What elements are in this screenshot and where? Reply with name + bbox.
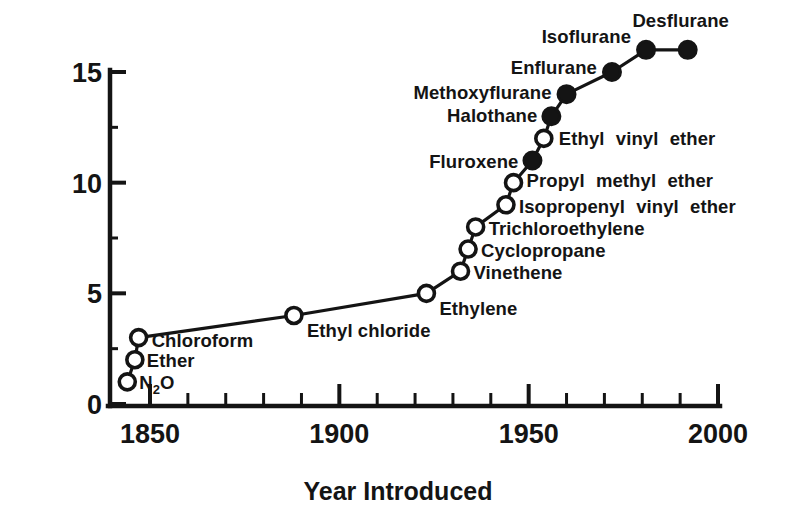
y-tick-label: 15: [72, 58, 102, 88]
x-tick-label: 1900: [309, 419, 369, 449]
data-point-labels: N2OEtherChloroformEthyl chlorideEthylene…: [139, 10, 735, 397]
data-point-ethyl-vinyl-ether: [536, 130, 552, 146]
data-point-label-ethylene: Ethylene: [439, 298, 517, 319]
x-tick-label: 2000: [688, 419, 748, 449]
data-point-label-enflurane: Enflurane: [511, 57, 597, 78]
chart-canvas: 051015 1850190019502000 N2OEtherChlorofo…: [0, 0, 787, 515]
data-point-label-cyclopropane: Cyclopropane: [481, 240, 606, 261]
data-point-propyl-methyl-ether: [506, 175, 522, 191]
data-point-methoxyflurane: [558, 86, 575, 103]
data-point-halothane: [543, 108, 560, 125]
x-axis-title: Year Introduced: [304, 477, 493, 505]
data-point-trichloroethylene: [468, 219, 484, 235]
data-point-label-isoflurane: Isoflurane: [542, 26, 631, 47]
data-point-label-ethyl-chloride: Ethyl chloride: [307, 320, 431, 341]
data-point-desflurane: [679, 41, 696, 58]
data-point-label-vinethene: Vinethene: [474, 262, 563, 283]
y-axis-tick-labels: 051015: [72, 58, 102, 420]
x-axis-tick-labels: 1850190019502000: [120, 419, 748, 449]
y-tick-label: 5: [87, 279, 102, 309]
data-point-isoflurane: [638, 41, 655, 58]
data-point-enflurane: [603, 64, 620, 81]
x-axis-major-ticks: [150, 384, 718, 406]
data-point-cyclopropane: [460, 241, 476, 257]
data-point-label-isopropenyl-vinyl-ether: Isopropenyl vinyl ether: [519, 196, 736, 217]
data-point-isopropenyl-vinyl-ether: [498, 197, 514, 213]
data-point-label-propyl-methyl-ether: Propyl methyl ether: [527, 170, 714, 191]
data-point-label-fluroxene: Fluroxene: [429, 151, 518, 172]
data-point-fluroxene: [524, 152, 541, 169]
data-point-label-ether: Ether: [147, 350, 195, 371]
data-point-label-n2o: N2O: [139, 372, 174, 397]
data-point-label-chloroform: Chloroform: [152, 330, 254, 351]
data-point-label-methoxyflurane: Methoxyflurane: [413, 82, 551, 103]
data-point-ethylene: [418, 285, 434, 301]
y-tick-label: 10: [72, 169, 102, 199]
data-point-label-halothane: Halothane: [447, 105, 537, 126]
data-point-label-ethyl-vinyl-ether: Ethyl vinyl ether: [559, 128, 716, 149]
data-point-ether: [127, 352, 143, 368]
x-tick-label: 1850: [120, 419, 180, 449]
data-point-n2o: [119, 374, 135, 390]
x-tick-label: 1950: [499, 419, 559, 449]
data-point-ethyl-chloride: [286, 307, 302, 323]
anesthetic-introduction-chart: 051015 1850190019502000 N2OEtherChlorofo…: [0, 0, 787, 515]
data-point-label-trichloroethylene: Trichloroethylene: [489, 218, 645, 239]
data-point-vinethene: [453, 263, 469, 279]
y-axis-ticks: [110, 72, 126, 404]
data-point-chloroform: [131, 330, 147, 346]
data-point-label-desflurane: Desflurane: [632, 10, 729, 31]
y-tick-label: 0: [87, 390, 102, 420]
